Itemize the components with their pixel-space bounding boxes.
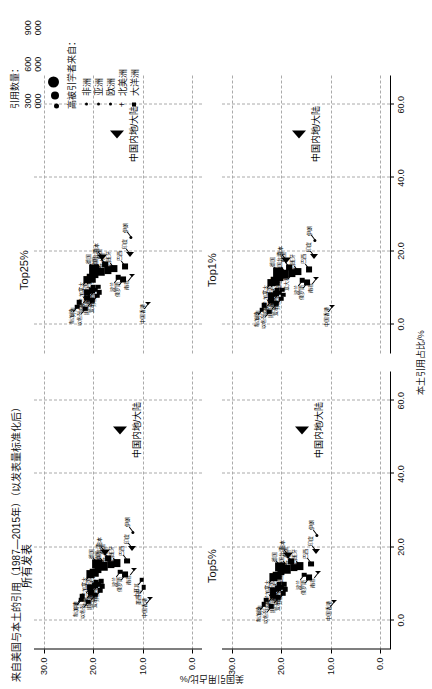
legend-marker-square-small [132, 102, 136, 106]
y-axis-tick-label: 10.0 [326, 657, 336, 675]
x-axis-tick-label: 0.0 [396, 317, 406, 330]
gridline-vertical [222, 619, 390, 620]
y-axis-tick [44, 649, 45, 653]
point-label: 加拿大 [77, 282, 84, 297]
legend-marker-dot-small [109, 103, 112, 106]
data-point [113, 426, 127, 434]
legend-item-欧洲: 欧洲 [104, 0, 116, 108]
point-label: 印度 [119, 239, 126, 249]
y-axis-tick-label: 10.0 [138, 657, 148, 675]
legend-size-title: 引用数量： [8, 0, 21, 108]
point-label: 日本 [95, 537, 102, 547]
gridline-vertical [222, 103, 390, 104]
panel-top25: 新加坡以色列丹麦瑞典挪威荷兰瑞士比利时奥地利爱尔兰芬兰新西兰英国加拿大澳大利亚德… [34, 75, 202, 353]
gridline-horizontal [281, 75, 282, 353]
panel-title-top1: Top1% [206, 253, 218, 287]
point-label: 中国内地/大陆 [309, 105, 322, 162]
gridline-horizontal [192, 371, 193, 649]
x-axis-tick [390, 176, 394, 177]
x-axis-tick [390, 250, 394, 251]
gridline-horizontal [232, 371, 233, 649]
label-leader-line [311, 235, 316, 241]
point-label: 波兰 [292, 285, 299, 295]
point-label: 日本 [92, 242, 99, 252]
figure-canvas: 来自美国与本土的引用（1987—2015年）（以发表量标准化后） 所有发表新加坡… [0, 0, 432, 689]
legend-size-value: 600 000 [23, 41, 43, 72]
point-label: 意大利 [282, 275, 289, 290]
panel-top1: 新加坡以色列丹麦瑞典挪威荷兰瑞士比利时奥地利爱尔兰芬兰新西兰英国加拿大澳大利亚德… [222, 75, 390, 353]
point-label: 南非 [121, 280, 128, 290]
legend: 引用数量： 300 000600 000900 000 高被引学者来自： 非洲亚… [8, 0, 140, 108]
panel-title-top5: Top5% [206, 549, 218, 583]
point-label: 法国 [274, 279, 281, 289]
point-label: 中国内地/大陆 [312, 401, 325, 458]
x-axis-tick [390, 103, 394, 104]
point-label: 印度 [121, 533, 128, 543]
point-label: 墨西哥 [133, 589, 140, 604]
legend-shape-title: 高被引学者来自： [65, 0, 78, 108]
legend-bubble-300 000 [54, 103, 59, 108]
point-label: 加拿大 [261, 285, 268, 300]
gridline-horizontal [331, 75, 332, 353]
x-axis-tick-label: 20.0 [396, 538, 406, 556]
legend-shape-items: 非洲亚洲欧洲+北美洲大洋洲 [80, 0, 140, 108]
gridline-horizontal [44, 75, 45, 353]
point-label: 澳大利亚 [85, 274, 92, 294]
legend-marker-dot-small [97, 103, 100, 106]
y-axis-tick-label: 20.0 [276, 657, 286, 675]
legend-size-value: 300 000 [23, 77, 43, 108]
point-label: 波兰 [109, 576, 116, 586]
gridline-horizontal [232, 75, 233, 353]
point-label: 丹麦 [69, 307, 76, 317]
gridline-vertical [34, 619, 202, 620]
point-label: 澳大利亚 [88, 569, 95, 589]
point-label: 伊朗 [306, 520, 313, 530]
y-axis-tick-label: 0.0 [187, 657, 197, 670]
y-axis-tick [380, 649, 381, 653]
legend-size-bubbles [43, 0, 59, 108]
x-axis-tick-label: 60.0 [396, 96, 406, 114]
y-axis-line [34, 648, 202, 649]
gridline-vertical [34, 399, 202, 400]
point-label: 中国香港 [323, 601, 330, 621]
point-label: 中国内地/大陆 [130, 401, 143, 458]
y-axis-tick [232, 649, 233, 653]
x-axis-label: 本土引用占比/% [414, 330, 427, 395]
chart-stage: 来自美国与本土的引用（1987—2015年）（以发表量标准化后） 所有发表新加坡… [0, 0, 432, 689]
point-label: 巴西 [114, 251, 121, 261]
panel-all: 新加坡以色列丹麦瑞典挪威荷兰瑞士比利时奥地利爱尔兰芬兰新西兰英国加拿大澳大利亚德… [34, 371, 202, 649]
panel-title-top25: Top25% [18, 250, 30, 290]
point-label: 印度 [305, 536, 312, 546]
x-axis-tick-label: 20.0 [396, 242, 406, 260]
legend-size-values: 300 000600 000900 000 [23, 0, 43, 108]
y-axis-tick [192, 649, 193, 653]
panel-top5: 新加坡以色列丹麦瑞典挪威荷兰瑞士比利时奥地利爱尔兰芬兰新西兰英国加拿大澳大利亚德… [222, 371, 390, 649]
y-axis-line [222, 648, 390, 649]
legend-bubble-600 000 [51, 91, 59, 99]
point-label: 中国内地/大陆 [127, 105, 140, 162]
legend-marker-dot-small [85, 103, 88, 106]
point-label: 中国香港 [321, 306, 328, 326]
y-axis-tick-label: 0.0 [375, 657, 385, 670]
point-label: 日本 [278, 540, 285, 550]
gridline-horizontal [331, 371, 332, 649]
gridline-vertical [222, 472, 390, 473]
gridline-horizontal [380, 75, 381, 353]
y-axis-tick [93, 649, 94, 653]
gridline-horizontal [44, 371, 45, 649]
x-axis-tick [390, 546, 394, 547]
y-axis-tick-label: 30.0 [227, 657, 237, 675]
gridline-vertical [34, 323, 202, 324]
point-label: 伊朗 [120, 222, 127, 232]
label-leader-line [313, 529, 318, 535]
panel-title-all: 所有发表 [18, 544, 34, 588]
label-leader-line [129, 526, 134, 532]
point-label: 加拿大 [80, 576, 87, 591]
y-axis-tick-label: 30.0 [39, 657, 49, 675]
legend-bubble-900 000 [48, 76, 59, 87]
gridline-vertical [34, 176, 202, 177]
data-point [110, 130, 124, 138]
point-label: 南非 [307, 577, 314, 587]
y-axis-tick [331, 649, 332, 653]
gridline-vertical [222, 399, 390, 400]
